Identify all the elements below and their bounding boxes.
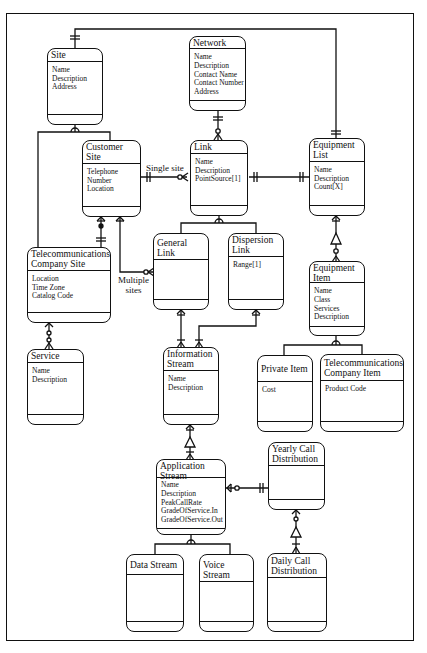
entity-title: Voice Stream: [200, 555, 253, 582]
entity-attributes: Product Code: [321, 381, 403, 421]
entity-private-item[interactable]: Private Item Cost: [257, 355, 313, 432]
entity-title: Information Stream: [164, 348, 218, 371]
entity-equipment-list[interactable]: Equipment List Name Description Count[X]: [309, 138, 365, 216]
entity-title: Site: [48, 49, 102, 62]
entity-yearly-call-distribution[interactable]: Yearly Call Distribution: [268, 442, 325, 510]
entity-general-link[interactable]: General Link: [153, 233, 209, 310]
entity-title: Equipment List: [310, 139, 364, 162]
entity-title: Daily Call Distribution: [268, 554, 326, 578]
entity-attributes: Cost: [258, 382, 312, 421]
entity-daily-call-distribution[interactable]: Daily Call Distribution: [267, 553, 327, 632]
entity-attributes: Name Description PeakCallRate GradeOfSer…: [157, 478, 225, 528]
entity-network[interactable]: Network Name Description Contact Name Co…: [189, 36, 246, 111]
entity-attributes: Location Time Zone Catalog Code: [28, 271, 110, 312]
entity-attributes: Name Description: [164, 371, 218, 414]
entity-attributes: Telephone Number Location: [83, 164, 140, 206]
entity-title: Private Item: [258, 356, 312, 382]
entity-title: Application Stream: [157, 460, 225, 478]
entity-attributes: Name Class Services Description: [310, 283, 364, 325]
entity-title: Dispersion Link: [229, 234, 283, 257]
entity-attributes: Name Description PointSource[1]: [191, 154, 247, 205]
entity-data-stream[interactable]: Data Stream: [126, 554, 184, 632]
label-multiple-sites: Multiple sites: [118, 275, 149, 295]
entity-title: Network: [190, 37, 245, 49]
entity-title: Service: [28, 350, 83, 363]
label-single-site: Single site: [146, 163, 184, 173]
entity-attributes: [200, 582, 253, 621]
entity-attributes: Name Description Contact Name Contact Nu…: [190, 49, 245, 100]
entity-title: Customer Site: [83, 141, 140, 164]
entity-attributes: Name Description Address: [48, 62, 102, 114]
entity-site[interactable]: Site Name Description Address: [47, 48, 103, 125]
entity-telecommunications-company-item[interactable]: Telecommunications Company Item Product …: [320, 354, 404, 432]
entity-customer-site[interactable]: Customer Site Telephone Number Location: [82, 140, 141, 217]
entity-information-stream[interactable]: Information Stream Name Description: [163, 347, 219, 425]
entity-title: Link: [191, 141, 247, 154]
entity-title: General Link: [154, 234, 208, 260]
entity-dispersion-link[interactable]: Dispersion Link Range[1]: [228, 233, 284, 310]
entity-title: Telecommunications Company Item: [321, 355, 403, 381]
entity-title: Yearly Call Distribution: [269, 443, 324, 466]
entity-voice-stream[interactable]: Voice Stream: [199, 554, 254, 632]
entity-telecommunications-company-site[interactable]: Telecommunications Company Site Location…: [27, 247, 111, 323]
entity-attributes: [154, 260, 208, 299]
entity-equipment-item[interactable]: Equipment Item Name Class Services Descr…: [309, 261, 365, 336]
entity-title: Data Stream: [127, 555, 183, 575]
entity-attributes: [268, 578, 326, 621]
entity-service[interactable]: Service Name Description: [27, 349, 84, 425]
entity-attributes: [127, 575, 183, 621]
entity-attributes: Range[1]: [229, 257, 283, 299]
entity-title: Telecommunications Company Site: [28, 248, 110, 271]
entity-application-stream[interactable]: Application Stream Name Description Peak…: [156, 459, 226, 535]
entity-link[interactable]: Link Name Description PointSource[1]: [190, 140, 248, 216]
entity-title: Equipment Item: [310, 262, 364, 283]
entity-attributes: Name Description: [28, 363, 83, 414]
entity-attributes: Name Description Count[X]: [310, 162, 364, 205]
entity-attributes: [269, 466, 324, 499]
